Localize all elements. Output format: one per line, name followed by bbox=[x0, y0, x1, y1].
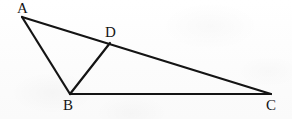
vertex-label-d: D bbox=[105, 25, 116, 40]
vertex-label-a: A bbox=[17, 1, 28, 16]
segments-group bbox=[22, 17, 271, 94]
geometry-canvas bbox=[0, 0, 292, 119]
vertex-label-c: C bbox=[266, 98, 276, 113]
geometry-figure: A B C D bbox=[0, 0, 292, 119]
segment-ac bbox=[22, 17, 271, 94]
segment-bd bbox=[70, 43, 110, 94]
vertex-label-b: B bbox=[63, 98, 73, 113]
